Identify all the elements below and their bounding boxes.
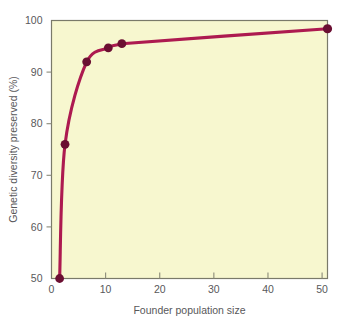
- data-point-marker: [82, 57, 91, 66]
- x-axis-title: Founder population size: [133, 304, 245, 316]
- x-tick-label: 40: [262, 283, 274, 295]
- plot-area-background: [52, 21, 328, 279]
- y-tick-label: 100: [25, 14, 43, 26]
- y-tick-label: 70: [31, 169, 43, 181]
- x-tick-label: 0: [49, 283, 55, 295]
- data-point-marker: [104, 43, 113, 52]
- data-point-marker: [61, 140, 70, 149]
- chart-figure: 5060708090100 01020304050 Founder popula…: [0, 0, 347, 322]
- y-tick-label: 60: [31, 221, 43, 233]
- y-tick-label: 50: [31, 272, 43, 284]
- y-tick-label: 80: [31, 117, 43, 129]
- y-tick-label: 90: [31, 66, 43, 78]
- x-tick-label: 10: [100, 283, 112, 295]
- data-point-marker: [117, 39, 126, 48]
- data-point-marker: [55, 274, 64, 283]
- x-tick-label: 20: [154, 283, 166, 295]
- data-point-marker: [323, 24, 332, 33]
- y-axis-title: Genetic diversity preserved (%): [7, 76, 19, 222]
- x-tick-label: 50: [316, 283, 328, 295]
- x-tick-label: 30: [208, 283, 220, 295]
- line-chart: 5060708090100 01020304050 Founder popula…: [0, 0, 347, 322]
